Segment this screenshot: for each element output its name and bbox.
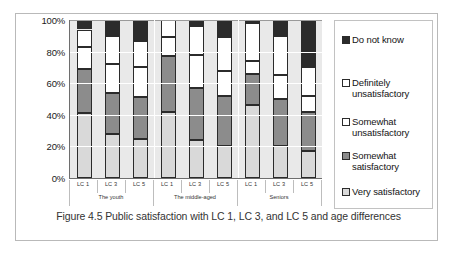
bar-segment — [273, 36, 288, 76]
bar-segment — [189, 26, 204, 54]
y-tick-label: 80% — [47, 46, 65, 57]
bar-segment — [301, 67, 316, 95]
x-tick-label: LC 3 — [105, 181, 117, 187]
bar-segment — [217, 146, 232, 178]
legend-label: Very satisfactory — [352, 187, 420, 198]
x-axis-group-divider — [153, 180, 154, 206]
gridline — [70, 52, 322, 53]
legend-label: Definitely unsatisfactory — [352, 78, 409, 99]
x-axis-labels: LC 1LC 3LC 5LC 1LC 3LC 5LC 1LC 3LC 5 — [69, 180, 321, 194]
bar-segment — [161, 20, 176, 37]
bar-segment — [77, 47, 92, 69]
bar-the-middle-aged-lc1[interactable] — [161, 20, 176, 178]
x-tick-divider — [97, 180, 98, 193]
legend-swatch-icon — [342, 152, 350, 160]
bar-the-youth-lc1[interactable] — [77, 20, 92, 178]
bar-segment — [245, 61, 260, 74]
x-tick-divider — [293, 180, 294, 193]
bar-segment — [273, 146, 288, 178]
gridline — [70, 146, 322, 147]
legend-label: Somewhat unsatisfactory — [352, 117, 409, 138]
bar-the-middle-aged-lc3[interactable] — [189, 20, 204, 178]
bar-segment — [245, 74, 260, 106]
legend-item[interactable]: Very satisfactory — [342, 187, 420, 198]
x-tick-divider — [209, 180, 210, 193]
bar-segment — [77, 30, 92, 47]
gridline — [70, 115, 322, 116]
legend-swatch-icon — [342, 188, 350, 196]
legend-label: Do not know — [352, 35, 404, 46]
legend-swatch-icon — [342, 118, 350, 126]
plot-area — [69, 20, 322, 179]
y-tick-label: 0% — [52, 173, 65, 184]
gridline — [70, 20, 322, 21]
bars-layer — [70, 20, 322, 178]
x-tick-label: LC 5 — [301, 181, 313, 187]
bar-segment — [105, 134, 120, 178]
bar-the-youth-lc3[interactable] — [105, 20, 120, 178]
bar-segment — [301, 112, 316, 152]
x-axis-group-divider — [69, 180, 70, 206]
x-tick-divider — [181, 180, 182, 193]
figure-caption: Figure 4.5 Public satisfaction with LC 1… — [36, 210, 421, 223]
x-tick-label: LC 3 — [189, 181, 201, 187]
group-separator — [154, 20, 155, 178]
legend-item[interactable]: Somewhat unsatisfactory — [342, 117, 409, 138]
legend-swatch-icon — [342, 79, 350, 87]
x-tick-label: LC 5 — [217, 181, 229, 187]
group-separator — [238, 20, 239, 178]
bar-segment — [77, 69, 92, 113]
bar-segment — [133, 97, 148, 138]
x-axis-group-label: The youth — [99, 194, 124, 200]
legend-item[interactable]: Do not know — [342, 35, 404, 46]
y-tick-label: 100% — [42, 15, 66, 26]
y-tick-label: 60% — [47, 78, 65, 89]
bar-segment — [217, 37, 232, 70]
bar-segment — [105, 20, 120, 36]
bar-segment — [301, 96, 316, 112]
legend-item[interactable]: Somewhat satisfactory — [342, 151, 399, 172]
bar-seniors-lc5[interactable] — [301, 20, 316, 178]
bar-segment — [133, 139, 148, 179]
y-tick-label: 20% — [47, 141, 65, 152]
x-axis-group-labels: The youthThe middle-agedSeniors — [69, 194, 321, 208]
bar-segment — [245, 105, 260, 178]
bar-the-youth-lc5[interactable] — [133, 20, 148, 178]
figure-root: 100%80%60%40%20%0% LC 1LC 3LC 5LC 1LC 3L… — [0, 0, 453, 255]
x-tick-label: LC 5 — [133, 181, 145, 187]
y-axis: 100%80%60%40%20%0% — [35, 20, 67, 178]
bar-the-middle-aged-lc5[interactable] — [217, 20, 232, 178]
bar-segment — [133, 41, 148, 68]
x-axis-group-divider — [321, 180, 322, 206]
x-tick-divider — [265, 180, 266, 193]
gridline — [70, 83, 322, 84]
chart-area: 100%80%60%40%20%0% LC 1LC 3LC 5LC 1LC 3L… — [35, 20, 325, 215]
bar-segment — [133, 20, 148, 41]
x-axis-group-label: Seniors — [270, 194, 289, 200]
x-tick-label: LC 1 — [161, 181, 173, 187]
x-axis-group-divider — [237, 180, 238, 206]
x-tick-label: LC 1 — [245, 181, 257, 187]
bar-segment — [105, 64, 120, 92]
bar-segment — [105, 36, 120, 64]
chart-legend: Do not knowDefinitely unsatisfactorySome… — [334, 20, 433, 209]
legend-swatch-icon — [342, 36, 350, 44]
figure-frame: 100%80%60%40%20%0% LC 1LC 3LC 5LC 1LC 3L… — [15, 13, 438, 241]
x-tick-label: LC 3 — [273, 181, 285, 187]
bar-segment — [273, 20, 288, 36]
bar-segment — [217, 96, 232, 147]
bar-segment — [161, 112, 176, 178]
legend-item[interactable]: Definitely unsatisfactory — [342, 78, 409, 99]
bar-seniors-lc1[interactable] — [245, 20, 260, 178]
bar-segment — [217, 20, 232, 37]
bar-segment — [273, 75, 288, 99]
bar-segment — [245, 23, 260, 61]
x-tick-label: LC 1 — [77, 181, 89, 187]
bar-seniors-lc3[interactable] — [273, 20, 288, 178]
y-tick-label: 40% — [47, 109, 65, 120]
x-tick-divider — [125, 180, 126, 193]
bar-segment — [301, 151, 316, 178]
x-axis-group-label: The middle-aged — [174, 194, 216, 200]
bar-segment — [105, 93, 120, 134]
bar-segment — [161, 37, 176, 56]
